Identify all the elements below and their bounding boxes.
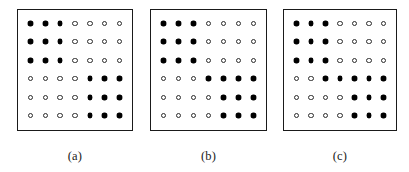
grid-cell [246, 107, 261, 126]
grid-cell [201, 88, 216, 107]
grid-cell [289, 51, 304, 70]
open-dot [337, 58, 342, 63]
grid-cell [216, 14, 231, 33]
grid-cell [53, 51, 68, 70]
grid-cell [53, 14, 68, 33]
panel-c-caption: (c) [283, 149, 397, 164]
grid-cell [38, 33, 53, 52]
grid-cell [333, 33, 348, 52]
open-dot [102, 58, 107, 63]
grid-cell [376, 107, 391, 126]
grid-cell [68, 107, 83, 126]
panel-c-box [283, 9, 397, 131]
filled-dot [102, 113, 107, 118]
filled-dot [236, 113, 241, 118]
open-dot [57, 76, 62, 81]
filled-dot [367, 113, 372, 118]
open-dot [43, 95, 48, 100]
filled-dot [176, 58, 181, 63]
grid-cell [38, 70, 53, 89]
filled-dot [102, 95, 107, 100]
grid-cell [23, 51, 38, 70]
open-dot [366, 21, 371, 26]
open-dot [294, 95, 299, 100]
open-dot [221, 21, 226, 26]
grid-cell [347, 70, 362, 89]
filled-dot [381, 113, 386, 118]
open-dot [191, 95, 196, 100]
panel-c: (c) [283, 9, 397, 131]
filled-dot [58, 21, 63, 26]
grid-cell [231, 14, 246, 33]
open-dot [251, 39, 256, 44]
grid-cell [68, 88, 83, 107]
grid-cell [97, 70, 112, 89]
grid-cell [68, 33, 83, 52]
filled-dot [88, 95, 93, 100]
grid-cell [376, 14, 391, 33]
grid-cell [289, 14, 304, 33]
grid-cell [376, 70, 391, 89]
grid-cell [216, 70, 231, 89]
grid-cell [304, 107, 319, 126]
grid-cell [53, 70, 68, 89]
open-dot [28, 95, 33, 100]
grid-cell [201, 70, 216, 89]
open-dot [337, 39, 342, 44]
grid-cell [82, 88, 97, 107]
grid-cell [333, 14, 348, 33]
filled-dot [191, 39, 196, 44]
open-dot [87, 39, 92, 44]
filled-dot [43, 58, 48, 63]
grid-cell [97, 14, 112, 33]
open-dot [161, 95, 166, 100]
grid-cell [347, 14, 362, 33]
panel-b-dot-grid [151, 10, 266, 130]
grid-cell [171, 70, 186, 89]
filled-dot [191, 58, 196, 63]
grid-cell [23, 14, 38, 33]
open-dot [102, 21, 107, 26]
filled-dot [323, 39, 328, 44]
grid-cell [216, 88, 231, 107]
filled-dot [88, 76, 93, 81]
filled-dot [117, 113, 122, 118]
panel-a-dot-grid [18, 10, 132, 130]
open-dot [72, 39, 77, 44]
open-dot [161, 76, 166, 81]
filled-dot [102, 76, 107, 81]
grid-cell [231, 88, 246, 107]
grid-cell [186, 70, 201, 89]
grid-cell [156, 88, 171, 107]
grid-cell [97, 51, 112, 70]
open-dot [206, 95, 211, 100]
filled-dot [236, 76, 241, 81]
panel-b: (b) [150, 9, 267, 131]
panel-c-dot-grid [284, 10, 396, 130]
open-dot [308, 113, 313, 118]
filled-dot [352, 95, 357, 100]
grid-cell [362, 14, 377, 33]
open-dot [72, 58, 77, 63]
grid-cell [304, 70, 319, 89]
open-dot [352, 21, 357, 26]
panel-b-caption: (b) [150, 149, 267, 164]
open-dot [206, 58, 211, 63]
open-dot [236, 21, 241, 26]
grid-cell [38, 107, 53, 126]
open-dot [117, 21, 122, 26]
grid-cell [231, 51, 246, 70]
grid-cell [23, 33, 38, 52]
grid-cell [171, 51, 186, 70]
open-dot [176, 95, 181, 100]
grid-cell [112, 107, 127, 126]
grid-cell [362, 70, 377, 89]
panel-a-box [17, 9, 133, 131]
open-dot [251, 58, 256, 63]
grid-cell [156, 70, 171, 89]
open-dot [206, 113, 211, 118]
filled-dot [381, 95, 386, 100]
grid-cell [376, 88, 391, 107]
grid-cell [201, 51, 216, 70]
filled-dot [58, 39, 63, 44]
